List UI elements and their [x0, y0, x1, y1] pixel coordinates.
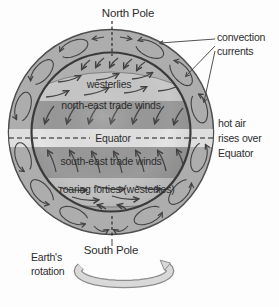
label-earth-rotation-line2: rotation [31, 265, 65, 277]
diagram-canvas: Equator westerlies north-east trade wind… [0, 0, 279, 307]
wind-circulation-diagram: Equator westerlies north-east trade wind… [0, 0, 279, 307]
label-earth-rotation-line1: Earth's [31, 251, 62, 263]
label-hot-air-line1: hot air [218, 117, 246, 129]
label-roaring-forties: roaring forties (westerlies) [59, 183, 174, 195]
label-southeast-trades: south-east trade winds [60, 155, 161, 167]
label-south-pole: South Pole [84, 244, 138, 256]
label-northeast-trades: north-east trade winds [61, 99, 161, 111]
label-convection-line2: currents [217, 45, 253, 57]
label-westerlies: westerlies [86, 78, 132, 90]
label-north-pole: North Pole [102, 7, 154, 19]
label-equator: Equator [95, 132, 131, 144]
label-hot-air-line2: rises over [218, 132, 262, 144]
label-convection-line1: convection [217, 31, 266, 43]
label-hot-air-line3: Equator [218, 147, 254, 159]
